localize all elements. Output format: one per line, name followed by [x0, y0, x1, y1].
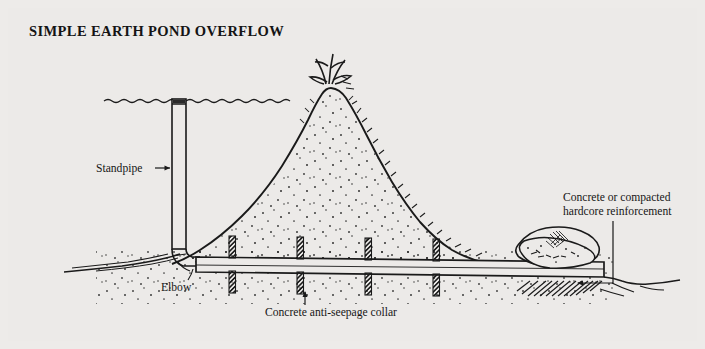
- standpipe-leader-arrow: [165, 166, 171, 171]
- reinforcement-label-line1: Concrete or compacted: [563, 191, 671, 204]
- standpipe-label: Standpipe: [96, 162, 142, 175]
- diagram-canvas: SIMPLE EARTH POND OVERFLOW: [0, 0, 705, 349]
- elbow-label: Elbow: [161, 281, 192, 294]
- grass-tuft: [310, 54, 351, 84]
- collar-label: Concrete anti-seepage collar: [265, 306, 397, 319]
- vertical-standpipe: [172, 99, 186, 249]
- reinforcement-label-line2: hardcore reinforcement: [563, 205, 672, 218]
- page-title: SIMPLE EARTH POND OVERFLOW: [29, 23, 284, 39]
- water-surface: [104, 100, 290, 103]
- figure-container: SIMPLE EARTH POND OVERFLOW: [0, 0, 705, 349]
- label-standpipe: Standpipe: [96, 162, 170, 175]
- hardcore-reinforcement-blob: [516, 227, 600, 268]
